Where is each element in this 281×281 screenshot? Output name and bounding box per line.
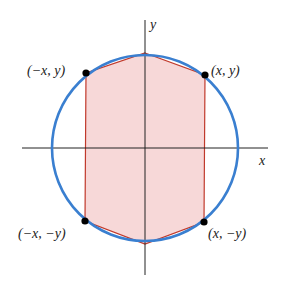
label-pos-x-pos-y: (x, y) [211,63,240,79]
point-pos-x-neg-y [200,218,207,225]
label-neg-x-neg-y: (−x, −y) [18,226,66,242]
point-neg-x-pos-y [82,69,89,76]
y-axis-label: y [148,17,157,32]
label-pos-x-neg-y: (x, −y) [208,226,247,242]
x-axis-label: x [258,153,266,168]
point-pos-x-pos-y [201,71,208,78]
diagram-canvas: y x (−x, y) (x, y) (−x, −y) (x, −y) [0,0,281,281]
point-neg-x-neg-y [81,217,88,224]
label-neg-x-pos-y: (−x, y) [27,63,66,79]
